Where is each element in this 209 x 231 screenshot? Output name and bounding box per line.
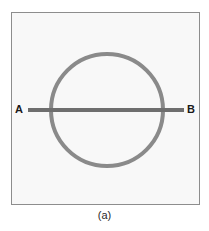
figure-drawing-canvas [0, 0, 209, 231]
endpoint-label-a: A [15, 104, 23, 115]
endpoint-label-b: B [187, 104, 195, 115]
figure-caption: (a) [0, 209, 209, 222]
figure-container: A B (a) [0, 0, 209, 231]
